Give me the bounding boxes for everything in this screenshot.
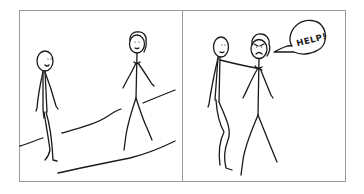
comic-canvas: HELP! xyxy=(0,0,364,194)
comic-strip: HELP! xyxy=(0,0,364,194)
panel-1-frame xyxy=(20,11,183,182)
